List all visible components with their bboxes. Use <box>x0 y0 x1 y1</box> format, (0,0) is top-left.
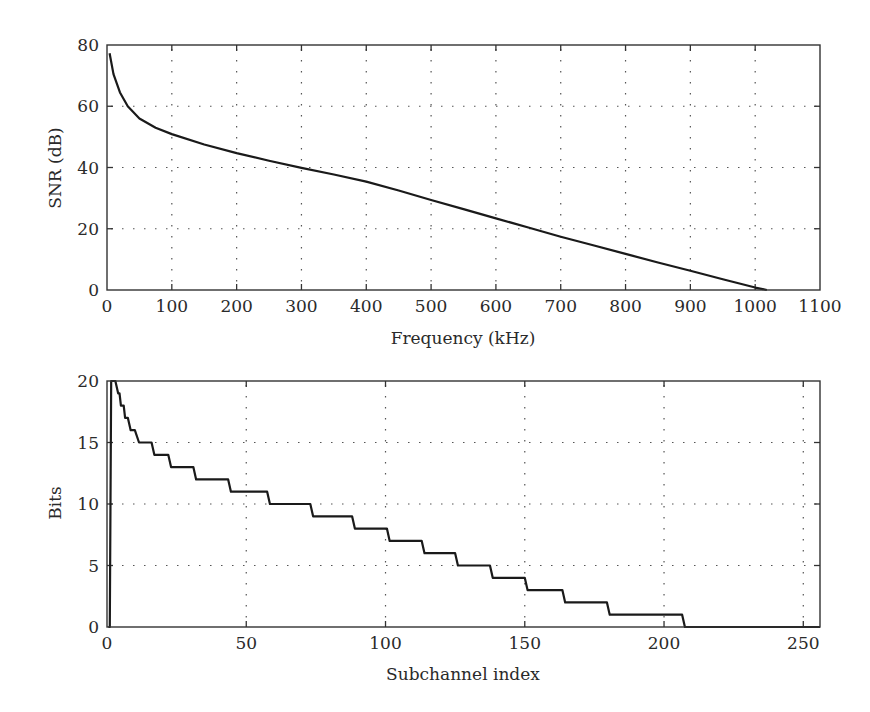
snr-vs-frequency-chart: 010020030040050060070080090010001100 020… <box>45 35 842 348</box>
data-series-line <box>110 53 767 290</box>
snr-curve <box>110 53 767 290</box>
bits-vs-subchannel-chart: 050100150200250 05101520 Subchannel inde… <box>45 371 820 684</box>
x-tick-label: 900 <box>674 296 706 316</box>
bits-x-axis-label: Subchannel index <box>386 664 540 684</box>
bits-x-tick-labels: 050100150200250 <box>102 633 820 653</box>
y-tick-label: 20 <box>77 219 99 239</box>
x-tick-label: 0 <box>102 633 113 653</box>
snr-x-axis-label: Frequency (kHz) <box>391 328 536 348</box>
snr-grid <box>111 49 820 290</box>
x-tick-label: 700 <box>545 296 577 316</box>
x-tick-label: 600 <box>480 296 512 316</box>
x-tick-label: 1000 <box>734 296 777 316</box>
x-tick-label: 300 <box>285 296 317 316</box>
y-tick-label: 0 <box>88 617 99 637</box>
bits-grid <box>111 385 820 627</box>
snr-y-axis-label: SNR (dB) <box>45 127 65 208</box>
x-tick-label: 400 <box>350 296 382 316</box>
x-tick-label: 100 <box>156 296 188 316</box>
x-tick-label: 1100 <box>798 296 841 316</box>
x-tick-label: 200 <box>648 633 680 653</box>
bits-y-axis-label: Bits <box>45 486 65 520</box>
x-tick-label: 250 <box>787 633 819 653</box>
y-tick-label: 40 <box>77 158 99 178</box>
y-tick-label: 60 <box>77 96 99 116</box>
y-tick-label: 0 <box>88 280 99 300</box>
y-tick-label: 10 <box>77 494 99 514</box>
x-tick-label: 0 <box>102 296 113 316</box>
snr-x-tick-labels: 010020030040050060070080090010001100 <box>102 296 842 316</box>
figure: 010020030040050060070080090010001100 020… <box>0 0 870 712</box>
x-tick-label: 200 <box>220 296 252 316</box>
x-tick-label: 500 <box>415 296 447 316</box>
x-tick-label: 50 <box>235 633 257 653</box>
snr-y-tick-labels: 020406080 <box>77 35 99 300</box>
y-tick-label: 15 <box>77 433 99 453</box>
x-tick-label: 150 <box>509 633 541 653</box>
y-tick-label: 20 <box>77 371 99 391</box>
y-tick-label: 80 <box>77 35 99 55</box>
y-tick-label: 5 <box>88 556 99 576</box>
bits-y-tick-labels: 05101520 <box>77 371 99 637</box>
x-tick-label: 100 <box>369 633 401 653</box>
x-tick-label: 800 <box>609 296 641 316</box>
